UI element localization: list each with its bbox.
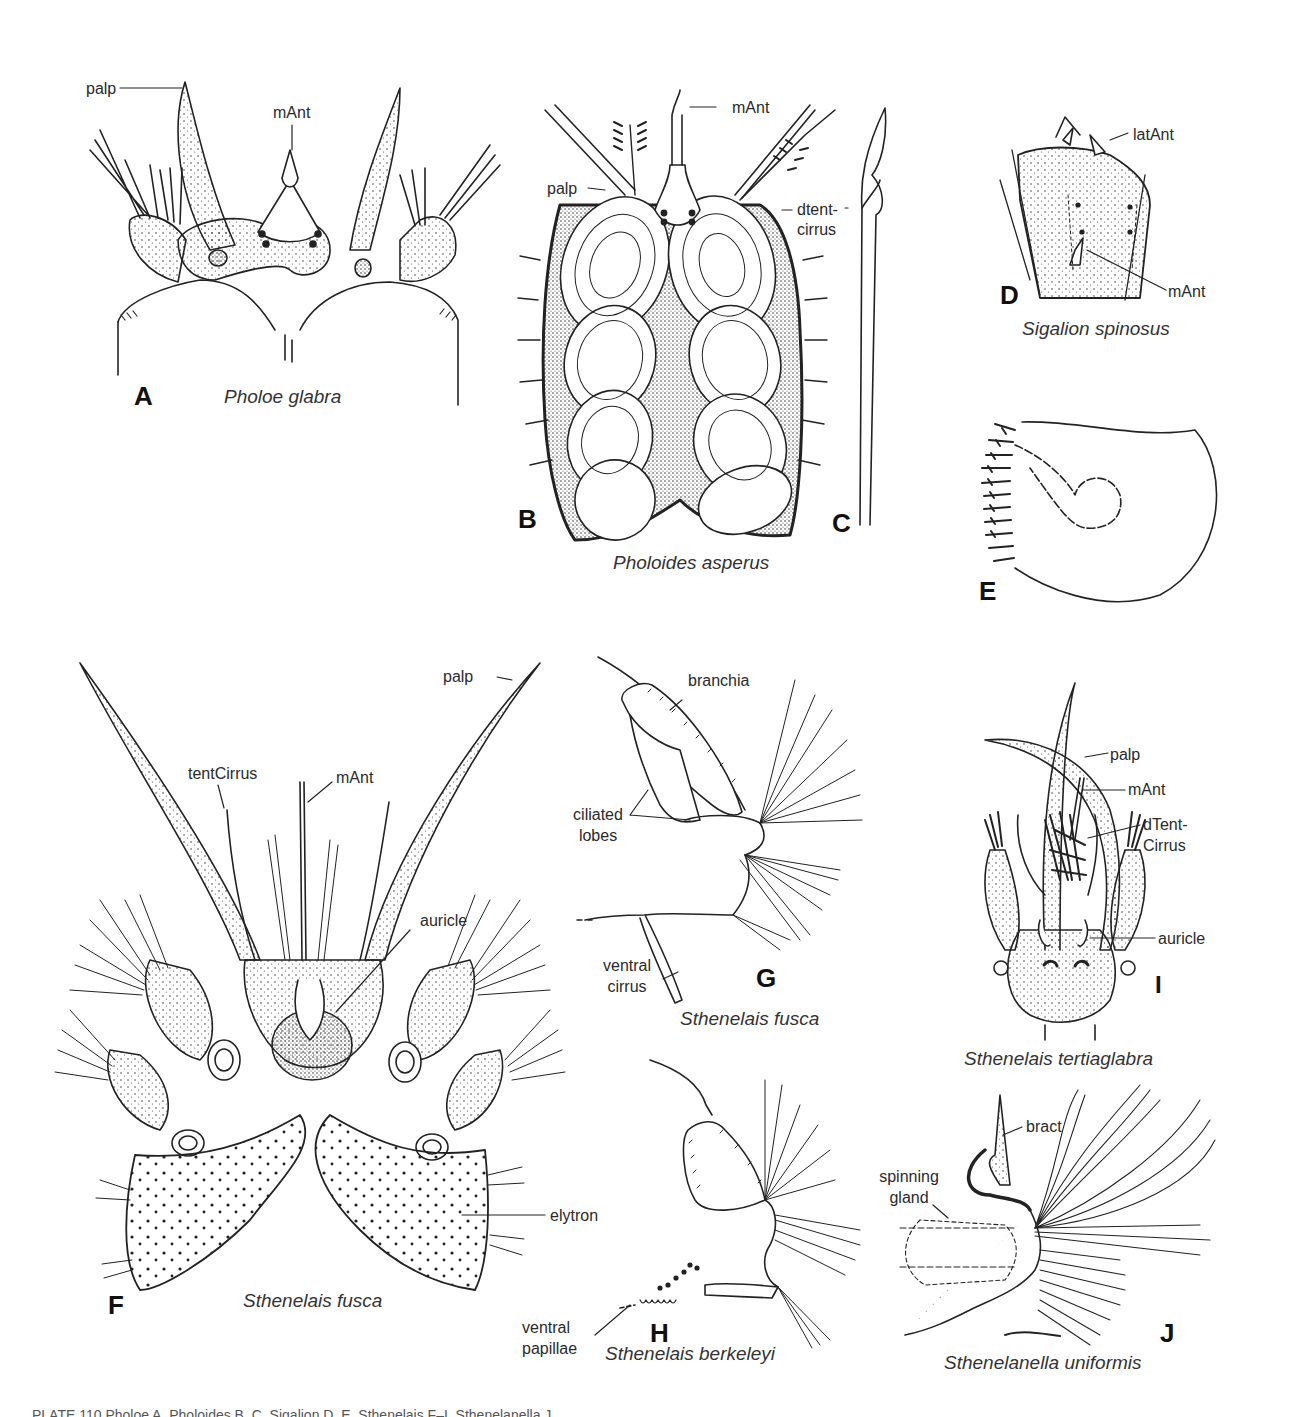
label-palp: palp — [1110, 745, 1140, 764]
label-latant: latAnt — [1133, 125, 1174, 144]
figure-a-drawing — [90, 82, 500, 405]
figure-c-drawing — [845, 108, 886, 525]
figure-letter-b: B — [518, 506, 537, 532]
label-mant: mAnt — [1128, 780, 1165, 799]
species-name-h: Sthenelais berkeleyi — [605, 1343, 775, 1365]
label-ciliated: ciliated — [562, 805, 634, 824]
label-tentcirrus: tentCirrus — [188, 764, 257, 783]
species-name-a: Pholoe glabra — [224, 386, 341, 408]
label-auricle: auricle — [1158, 929, 1205, 948]
label-ventral: ventral — [522, 1318, 570, 1337]
species-name-d: Sigalion spinosus — [1022, 318, 1170, 340]
figure-plate: palp mAnt A Pholoe glabra palp mAnt dten… — [0, 0, 1296, 1417]
label-cirrus: cirrus — [594, 977, 660, 996]
label-mant: mAnt — [273, 103, 310, 122]
label-auricle: auricle — [420, 911, 467, 930]
species-name-g: Sthenelais fusca — [680, 1008, 819, 1030]
plate-caption: PLATE 110 Pholoe A, Pholoides B, C, Siga… — [32, 1404, 551, 1417]
label-bract: bract — [1026, 1117, 1062, 1136]
label-cirrus: Cirrus — [1143, 836, 1186, 855]
species-name-i: Sthenelais tertiaglabra — [964, 1048, 1153, 1070]
figure-letter-e: E — [979, 578, 996, 604]
figure-b-drawing — [518, 90, 835, 549]
label-mant: mAnt — [732, 98, 769, 117]
label-dtent: dtent- — [797, 200, 838, 219]
label-papillae: papillae — [522, 1339, 577, 1358]
label-spinning: spinning — [866, 1167, 952, 1186]
label-palp: palp — [547, 179, 577, 198]
species-name-f: Sthenelais fusca — [243, 1290, 382, 1312]
figure-letter-a: A — [134, 383, 153, 409]
plate-illustrations — [0, 0, 1296, 1417]
species-name-b: Pholoides asperus — [613, 552, 769, 574]
figure-letter-g: G — [756, 965, 776, 991]
figure-h-drawing — [595, 1060, 860, 1348]
label-mant: mAnt — [1168, 282, 1205, 301]
figure-d-drawing — [1000, 117, 1166, 300]
label-cirrus: cirrus — [797, 220, 836, 239]
figure-i-drawing — [985, 683, 1155, 1040]
label-elytron: elytron — [550, 1206, 598, 1225]
label-lobes: lobes — [562, 826, 634, 845]
label-mant: mAnt — [336, 768, 373, 787]
figure-letter-i: I — [1155, 972, 1162, 998]
label-gland: gland — [866, 1188, 952, 1207]
label-ventral: ventral — [594, 956, 660, 975]
label-palp: palp — [443, 667, 473, 686]
label-branchia: branchia — [688, 671, 749, 690]
figure-letter-c: C — [832, 510, 851, 536]
species-name-j: Sthenelanella uniformis — [944, 1352, 1142, 1374]
figure-letter-j: J — [1160, 1320, 1174, 1346]
figure-f-drawing — [55, 663, 565, 1290]
figure-letter-f: F — [108, 1292, 124, 1318]
label-dtent: dTent- — [1143, 815, 1187, 834]
figure-letter-d: D — [1000, 282, 1019, 308]
label-palp: palp — [86, 79, 116, 98]
figure-e-drawing — [982, 422, 1217, 602]
